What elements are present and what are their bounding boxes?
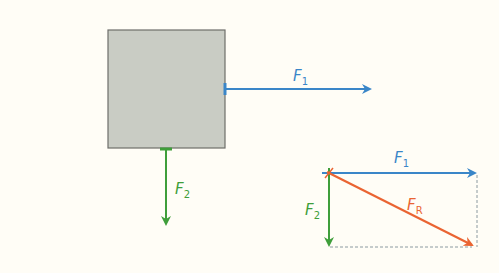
force-f2-arrow: F2	[160, 148, 190, 224]
resultant-f1-label: F1	[394, 149, 409, 169]
f2-label: F2	[175, 180, 190, 200]
block	[108, 30, 225, 148]
f1-label: F1	[293, 67, 308, 87]
resultant-f2-label: F2	[305, 201, 320, 221]
force-diagram: F1 F2 F1 F2 FR	[0, 0, 499, 273]
vector-addition-diagram: F1 F2 FR	[305, 149, 477, 247]
force-f1-arrow: F1	[225, 67, 370, 95]
resultant-fr-label: FR	[407, 196, 423, 216]
resultant-fr-arrow	[327, 172, 472, 245]
